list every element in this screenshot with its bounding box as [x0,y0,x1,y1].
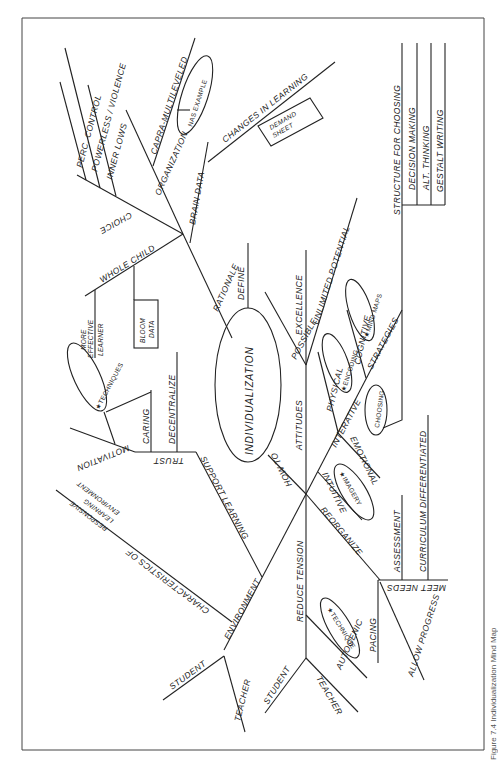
more-effective-3: LEARNER [97,323,104,356]
excellence-label: EXCELLENCE [294,275,304,335]
whole-child-label: WHOLE CHILD [98,243,157,285]
meet-needs-label: MEET NEEDS [387,583,446,593]
reduce-tension-label: REDUCE TENSION [295,540,305,622]
pacing-label: PACING [368,618,378,652]
gestalt-label: GESTALT WRITING [435,109,445,192]
structure-label: STRUCTURE FOR CHOOSING [392,85,402,215]
reduce-teacher-label: TEACHER [314,674,344,717]
mind-map-figure: INDIVIDUALIZATION RATIONALE BRAIN DATA C… [0,0,498,764]
env-teacher-label: TEACHER [232,678,252,723]
attitudes-label: ATTITUDES [294,400,304,451]
choice-label: CHOICE [98,210,134,236]
alt-thinking-label: ALT. THINKING [421,125,431,191]
characteristics-label: CHARACTERISTICS OF [124,547,212,616]
decision-label: DECISION MAKING [407,107,417,190]
decentralize-label: DECENTRALIZE [167,374,177,444]
env-student-label: STUDENT [167,658,208,692]
environment-label: ENVIRONMENT [222,577,263,641]
how-to-label: HOW TO [269,451,294,489]
choosing-label: CHOOSING [373,390,385,428]
techniques-label: ★TECHNIQUES [94,361,126,411]
reduce-student-label: STUDENT [261,664,292,706]
allow-progress-label: ALLOW PROGRESS [405,593,441,679]
emotional-label: EMOTIONAL [348,434,381,487]
support-learning-label: SUPPORT LEARNING [198,454,251,541]
define-label: DEFINE [236,266,246,300]
trust-label: TRUST [153,456,184,466]
mind-map-canvas: INDIVIDUALIZATION RATIONALE BRAIN DATA C… [0,0,498,764]
changes-in-learning-line [208,62,335,162]
unlimited-label: UNLIMITED POTENTIAL [310,225,351,326]
brain-data-label: BRAIN DATA [187,171,206,226]
motivation-label: MOTIVATION [75,443,131,473]
caring-label: CARING [141,409,151,444]
env-student-line [163,656,224,700]
more-effective-2: EFFECTIVE [87,319,94,358]
bloom-data-2: DATA [148,320,155,338]
assessment-label: ASSESSMENT [392,509,402,573]
center-node-label: INDIVIDUALIZATION [244,347,255,455]
organization-line [126,110,183,234]
bloom-data-1: BLOOM [139,318,146,343]
curriculum-label: CURRICULUM DIFFERENTIATED [418,430,428,572]
figure-caption: Figure 7.4 Individualization Mind Map [489,627,498,760]
changes-in-learning-label: CHANGES IN LEARNING [220,71,310,144]
nas-example-label: NAS EXAMPLE [186,78,208,127]
